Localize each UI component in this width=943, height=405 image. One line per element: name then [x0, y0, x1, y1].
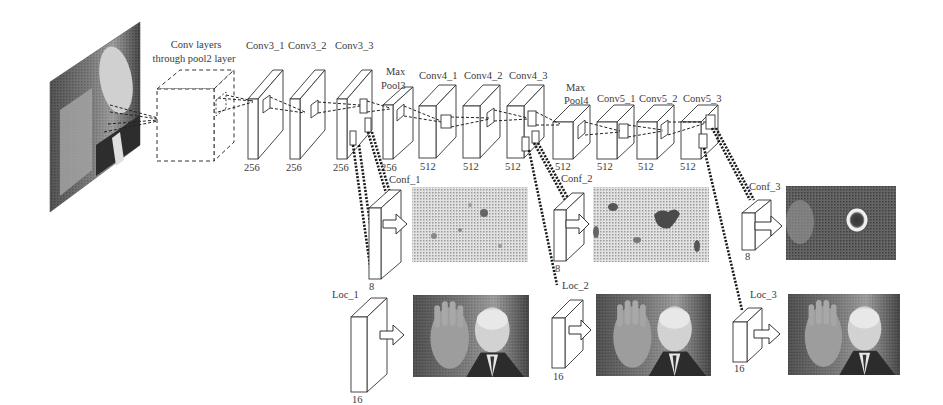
head-2: Conf_2 8 Loc_2 16 [552, 173, 711, 382]
layer-channels: 512 [638, 161, 654, 172]
layer-label-line1: Max [566, 82, 586, 93]
loc-1-channels: 16 [352, 394, 363, 405]
layer-label: Conv5_2 [639, 93, 678, 104]
layer-conv4-1: Conv4_1 512 [419, 70, 458, 172]
layer-conv5-3: Conv5_3 512 [680, 93, 722, 172]
conf-3-channels: 8 [745, 251, 750, 262]
loc-2-label: Loc_2 [562, 280, 589, 291]
layer-channels: 256 [381, 162, 397, 173]
layer-label: Conv3_3 [335, 40, 374, 51]
layer-channels: 512 [420, 161, 436, 172]
layer-maxpool4: Max Pool4 512 [553, 82, 590, 172]
network-diagram: Conv layers through pool2 layer Conv3_1 … [0, 0, 943, 405]
loc-2-output-photo [596, 294, 711, 376]
pre-conv-block: Conv layers through pool2 layer [153, 39, 236, 161]
layer-label: Conv5_1 [597, 93, 636, 104]
conf-1-label: Conf_1 [389, 174, 421, 185]
loc-1-output-photo [413, 295, 529, 377]
layer-channels: 512 [555, 161, 571, 172]
loc-3-label: Loc_3 [750, 289, 777, 300]
layer-maxpool3: Max Pool3 256 [381, 66, 413, 173]
loc-3-channels: 16 [734, 363, 745, 374]
conf-2-label: Conf_2 [561, 173, 593, 184]
conf-3-label: Conf_3 [749, 181, 781, 192]
layer-label-line1: Max [386, 66, 406, 77]
layer-channels: 512 [680, 161, 696, 172]
conf-2-channels: 8 [555, 263, 560, 274]
layer-label: Conv4_1 [419, 70, 458, 81]
conf-1-heatmap [412, 187, 528, 262]
layer-conv3-2: Conv3_2 256 [286, 40, 327, 173]
loc-1-label: Loc_1 [332, 289, 359, 300]
pre-block-label-1: Conv layers [171, 39, 221, 50]
loc-1-block: Loc_1 16 [332, 289, 387, 405]
layer-channels: 256 [333, 162, 349, 173]
layer-channels: 512 [463, 161, 479, 172]
layer-channels: 512 [505, 161, 521, 172]
loc-2-channels: 16 [553, 371, 564, 382]
conf-3-heatmap [786, 186, 896, 260]
conf-1-channels: 8 [369, 281, 374, 292]
layer-channels: 256 [244, 162, 260, 173]
layer-conv3-1: Conv3_1 256 [244, 40, 285, 173]
layer-channels: 512 [597, 161, 613, 172]
layer-channels: 256 [286, 162, 302, 173]
layer-label: Conv3_2 [288, 40, 327, 51]
conf-2-heatmap [593, 187, 709, 262]
loc-3-output-photo [788, 294, 900, 375]
layer-label-line2: Pool3 [381, 80, 406, 91]
layer-label: Conv4_2 [464, 70, 503, 81]
layer-label: Conv3_1 [246, 40, 285, 51]
head-3: Conf_3 8 Loc_3 16 [733, 181, 900, 375]
input-image [50, 22, 140, 212]
layer-conv5-2: Conv5_2 512 [637, 93, 678, 172]
pre-block-label-2: through pool2 layer [153, 53, 236, 64]
layer-label: Conv4_3 [509, 70, 548, 81]
layer-label: Conv5_3 [683, 93, 722, 104]
layer-label-line2: Pool4 [564, 95, 589, 106]
